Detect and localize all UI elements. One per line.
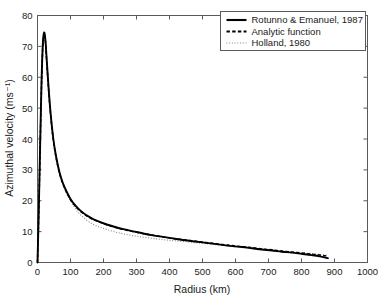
y-tick-label: 40 bbox=[22, 134, 33, 145]
y-tick-label: 70 bbox=[22, 41, 33, 52]
y-tick-label: 0 bbox=[27, 257, 32, 268]
tick-marks bbox=[38, 16, 368, 263]
x-tick-label: 200 bbox=[96, 266, 112, 277]
series-line-dashed bbox=[38, 35, 328, 262]
x-axis-title: Radius (km) bbox=[174, 283, 231, 295]
x-tick-label: 900 bbox=[327, 266, 343, 277]
x-tick-label: 400 bbox=[162, 266, 178, 277]
y-tick-labels: 01020304050607080 bbox=[22, 10, 33, 268]
y-tick-label: 20 bbox=[22, 195, 33, 206]
y-tick-label: 50 bbox=[22, 103, 33, 114]
y-tick-label: 10 bbox=[22, 226, 33, 237]
y-tick-label: 30 bbox=[22, 164, 33, 175]
y-tick-label: 60 bbox=[22, 72, 33, 83]
figure-container: 01002003004005006007008009001000 0102030… bbox=[0, 0, 385, 301]
y-tick-label: 80 bbox=[22, 10, 33, 21]
legend-label: Holland, 1980 bbox=[252, 37, 311, 48]
x-tick-label: 300 bbox=[129, 266, 145, 277]
chart-legend: Rotunno & Emanuel, 1987Analytic function… bbox=[221, 12, 366, 51]
y-axis-title: Azimuthal velocity (ms⁻¹) bbox=[3, 79, 15, 196]
x-tick-label: 600 bbox=[228, 266, 244, 277]
chart-canvas: 01002003004005006007008009001000 0102030… bbox=[0, 0, 385, 301]
axes-frame bbox=[38, 16, 368, 263]
x-tick-label: 700 bbox=[261, 266, 277, 277]
x-tick-label: 1000 bbox=[357, 266, 378, 277]
series-line-solid bbox=[38, 32, 328, 262]
legend-label: Analytic function bbox=[252, 26, 321, 37]
plot-frame bbox=[38, 16, 368, 263]
x-tick-label: 100 bbox=[63, 266, 79, 277]
legend-label: Rotunno & Emanuel, 1987 bbox=[252, 14, 363, 25]
series-line-dotted bbox=[38, 34, 328, 263]
x-tick-label: 800 bbox=[294, 266, 310, 277]
data-series bbox=[38, 32, 328, 262]
x-tick-label: 0 bbox=[35, 266, 40, 277]
x-tick-labels: 01002003004005006007008009001000 bbox=[35, 266, 378, 277]
x-tick-label: 500 bbox=[195, 266, 211, 277]
